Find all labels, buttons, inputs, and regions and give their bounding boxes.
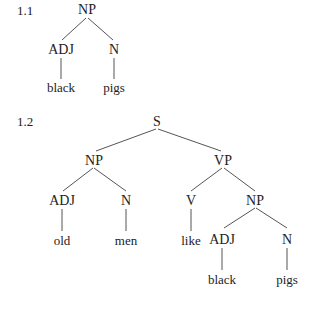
word-black: black [47, 81, 75, 95]
node-s: S [153, 115, 161, 129]
word-pigs: pigs [276, 273, 298, 287]
node-n-object: N [282, 233, 292, 247]
example-number-1-2: 1.2 [17, 115, 33, 128]
node-v: V [186, 194, 196, 208]
node-np-object: NP [246, 194, 264, 208]
node-n: N [121, 194, 131, 208]
word-old: old [54, 234, 71, 248]
word-pigs: pigs [103, 81, 125, 95]
node-vp: VP [214, 154, 232, 168]
tree-branches [0, 0, 312, 309]
node-np: NP [85, 154, 103, 168]
node-adj-object: ADJ [209, 233, 235, 247]
word-black: black [208, 273, 236, 287]
node-adj: ADJ [49, 194, 75, 208]
example-number-1-1: 1.1 [17, 4, 33, 17]
node-n: N [109, 43, 119, 57]
node-np: NP [78, 3, 96, 17]
word-like: like [181, 234, 201, 248]
node-adj: ADJ [48, 43, 74, 57]
word-men: men [115, 234, 137, 248]
